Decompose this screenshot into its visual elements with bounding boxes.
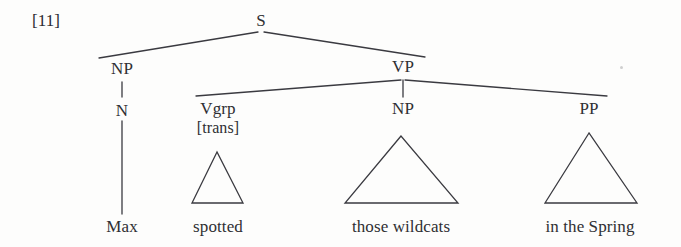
syntax-tree-figure: [11] S NP N VP Vgrp [trans] NP PP Max sp… xyxy=(0,0,681,247)
leaf-max: Max xyxy=(106,218,137,235)
node-label-np-subject: NP xyxy=(111,60,133,77)
edge-vp-pp xyxy=(405,80,607,96)
triangle-in-the-spring xyxy=(545,133,637,203)
node-label-pp: PP xyxy=(579,100,598,117)
leaf-those-wildcats: those wildcats xyxy=(352,218,450,235)
edge-s-np xyxy=(99,32,258,58)
node-label-vp: VP xyxy=(392,58,414,75)
node-label-vgrp: Vgrp xyxy=(200,100,235,117)
edge-s-vp xyxy=(264,32,425,57)
node-label-n: N xyxy=(116,102,128,119)
node-feature-trans: [trans] xyxy=(197,120,239,136)
leaf-in-the-spring: in the Spring xyxy=(545,218,634,235)
triangle-spotted xyxy=(192,152,243,203)
triangle-those-wildcats xyxy=(345,136,458,203)
node-label-s: S xyxy=(256,12,266,29)
tree-lines-canvas xyxy=(0,0,681,247)
edge-vp-vgrp xyxy=(196,80,401,96)
leaf-spotted: spotted xyxy=(193,218,243,235)
scan-speck-artifact xyxy=(620,66,623,69)
example-index-label: [11] xyxy=(32,12,60,29)
node-label-np-object: NP xyxy=(392,100,414,117)
